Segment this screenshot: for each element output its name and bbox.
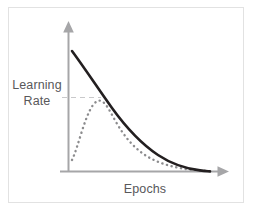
y-axis bbox=[63, 21, 74, 172]
series-warmup-decay-curve bbox=[72, 101, 209, 171]
y-axis-label-line2: Rate bbox=[10, 93, 64, 109]
figure-root: Learning Rate Epochs bbox=[0, 0, 253, 212]
x-axis-label: Epochs bbox=[110, 181, 180, 197]
y-axis-label-line1: Learning bbox=[12, 78, 61, 92]
y-axis-label: Learning Rate bbox=[10, 77, 64, 109]
